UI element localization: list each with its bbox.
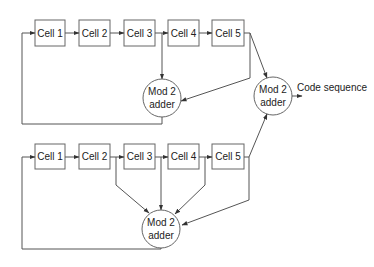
cell-label: Cell 4 <box>171 28 197 39</box>
code-sequence-label: Code sequence <box>297 82 367 93</box>
bottom-cell-1: Cell 1 <box>35 144 65 169</box>
top-output-line <box>250 33 267 78</box>
bottom-feedback-line <box>22 157 161 249</box>
cell-label: Cell 2 <box>82 151 108 162</box>
adder-label-line1: Mod 2 <box>259 84 287 95</box>
cell-label: Cell 1 <box>37 151 63 162</box>
bottom-cell-3: Cell 3 <box>124 144 155 169</box>
adder-label-line2: adder <box>260 97 286 108</box>
adder-label-line2: adder <box>148 230 174 241</box>
bottom-cell-2: Cell 2 <box>79 144 110 169</box>
top-cell-5: Cell 5 <box>212 20 244 46</box>
lfsr-code-generator-diagram: Cell 1 Cell 2 Cell 3 Cell 4 Cell 5 <box>0 0 374 267</box>
bottom-cell-4: Cell 4 <box>168 144 199 169</box>
adder-label-line1: Mod 2 <box>148 86 176 97</box>
top-mod2-adder: Mod 2 adder <box>143 79 181 117</box>
top-feedback-line <box>22 33 162 124</box>
top-cell-4: Cell 4 <box>168 20 199 46</box>
top-cell-3: Cell 3 <box>124 20 155 46</box>
cell-label: Cell 3 <box>127 151 153 162</box>
bottom-output-line <box>249 114 267 157</box>
output-mod2-adder: Mod 2 adder <box>254 77 292 115</box>
top-shift-register: Cell 1 Cell 2 Cell 3 Cell 4 Cell 5 <box>22 20 267 124</box>
top-cell-1: Cell 1 <box>35 20 65 46</box>
cell-label: Cell 5 <box>215 28 241 39</box>
cell-label: Cell 4 <box>171 151 197 162</box>
adder-label-line2: adder <box>149 99 175 110</box>
top-cell-2: Cell 2 <box>79 20 110 46</box>
bottom-shift-register: Cell 1 Cell 2 Cell 3 Cell 4 Cell 5 <box>22 114 267 249</box>
bottom-mod2-adder: Mod 2 adder <box>142 210 180 248</box>
bottom-cell-5: Cell 5 <box>212 144 244 169</box>
cell-label: Cell 3 <box>127 28 153 39</box>
cell-label: Cell 1 <box>37 28 63 39</box>
adder-label-line1: Mod 2 <box>147 217 175 228</box>
cell-label: Cell 5 <box>215 151 241 162</box>
cell-label: Cell 2 <box>82 28 108 39</box>
